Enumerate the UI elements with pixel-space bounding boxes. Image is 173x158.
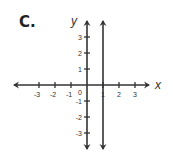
y-axis-label: y	[70, 14, 78, 28]
x-tick-label: -2	[50, 91, 56, 98]
x-axis-label: x	[154, 78, 162, 92]
x-tick-label: -1	[66, 91, 72, 98]
x-tick-label: -3	[34, 91, 40, 98]
origin-label: 0	[78, 89, 82, 96]
coordinate-plane: -3-2-1123-3-2-11230xy	[0, 0, 173, 158]
y-tick-label: 2	[78, 50, 82, 57]
y-tick-label: 1	[78, 66, 82, 73]
y-tick-label: 3	[78, 34, 82, 41]
x-tick-label: 2	[117, 91, 121, 98]
x-tick-label: 3	[133, 91, 137, 98]
y-tick-label: -3	[76, 130, 82, 137]
y-tick-label: -2	[76, 114, 82, 121]
y-tick-label: -1	[76, 98, 82, 105]
